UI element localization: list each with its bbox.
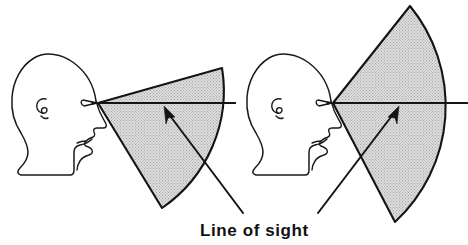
line-of-sight-caption: Line of sight [200, 221, 309, 240]
left-pupil [91, 101, 94, 104]
right-pupil [326, 101, 329, 104]
diagram-canvas: Line of sight [0, 0, 468, 245]
line-of-sight-figure: Line of sight [0, 0, 468, 245]
